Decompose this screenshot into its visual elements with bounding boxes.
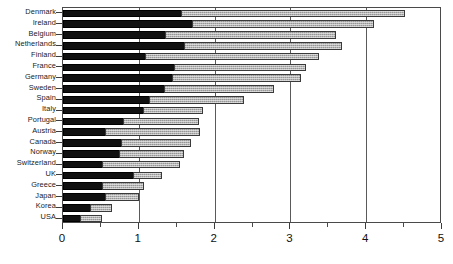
plot-area bbox=[62, 7, 441, 223]
y-axis-label-korea: Korea bbox=[0, 201, 56, 212]
bar-segment-dark bbox=[63, 31, 165, 39]
bar-row bbox=[63, 30, 442, 41]
x-tick-label-3: 3 bbox=[286, 231, 292, 245]
bar-segment-light bbox=[105, 128, 200, 136]
bar-segment-light bbox=[105, 193, 139, 201]
x-tick-major-3 bbox=[289, 223, 290, 229]
bar-segment-light bbox=[192, 20, 374, 28]
bar-row bbox=[63, 51, 442, 62]
y-axis-label-belgium: Belgium bbox=[0, 29, 56, 40]
bar-row bbox=[63, 105, 442, 116]
y-axis-label-austria: Austria bbox=[0, 126, 56, 137]
x-axis: 012345 bbox=[62, 223, 441, 253]
bar-segment-dark bbox=[63, 10, 181, 18]
bar-row bbox=[63, 170, 442, 181]
bar-segment-light bbox=[172, 74, 301, 82]
bar-row bbox=[63, 94, 442, 105]
y-axis-label-denmark: Denmark bbox=[0, 7, 56, 18]
x-tick-label-0: 0 bbox=[59, 231, 65, 245]
bar-segment-light bbox=[123, 118, 199, 126]
x-tick-major-0 bbox=[62, 223, 63, 229]
bar-row bbox=[63, 148, 442, 159]
bar-segment-dark bbox=[63, 85, 164, 93]
y-axis-label-italy: Italy bbox=[0, 104, 56, 115]
bar-segment-light bbox=[102, 182, 144, 190]
bar-segment-dark bbox=[63, 42, 184, 50]
y-axis-label-switzerland: Switzerland bbox=[0, 158, 56, 169]
bar-segment-light bbox=[102, 161, 180, 169]
bar-segment-light bbox=[181, 10, 405, 18]
bar-segment-light bbox=[119, 150, 184, 158]
y-axis-label-greece: Greece bbox=[0, 180, 56, 191]
bar-segment-light bbox=[90, 204, 113, 212]
y-axis-label-ireland: Ireland bbox=[0, 18, 56, 29]
bar-row bbox=[63, 19, 442, 30]
bar-segment-light bbox=[165, 31, 336, 39]
bar-segment-light bbox=[184, 42, 342, 50]
bar-segment-light bbox=[133, 172, 162, 180]
x-tick-minor-2.5 bbox=[252, 223, 253, 227]
x-tick-minor-4.5 bbox=[403, 223, 404, 227]
bar-segment-dark bbox=[63, 74, 172, 82]
x-tick-major-2 bbox=[214, 223, 215, 229]
bar-segment-dark bbox=[63, 172, 133, 180]
bar-segment-dark bbox=[63, 204, 90, 212]
bar-row bbox=[63, 202, 442, 213]
bar-segment-dark bbox=[63, 161, 102, 169]
y-axis-label-canada: Canada bbox=[0, 137, 56, 148]
bar-row bbox=[63, 8, 442, 19]
bar-segment-light bbox=[164, 85, 274, 93]
x-tick-label-2: 2 bbox=[210, 231, 216, 245]
bar-segment-dark bbox=[63, 118, 123, 126]
x-tick-label-5: 5 bbox=[438, 231, 444, 245]
bar-row bbox=[63, 138, 442, 149]
bar-row bbox=[63, 40, 442, 51]
bar-segment-light bbox=[80, 215, 103, 223]
bar-segment-light bbox=[174, 64, 307, 72]
y-axis-label-sweden: Sweden bbox=[0, 83, 56, 94]
bar-row bbox=[63, 116, 442, 127]
bar-segment-light bbox=[149, 96, 244, 104]
bar-segment-dark bbox=[63, 128, 105, 136]
x-tick-minor-0.5 bbox=[100, 223, 101, 227]
x-tick-major-1 bbox=[138, 223, 139, 229]
y-axis-label-finland: Finland bbox=[0, 50, 56, 61]
bar-segment-dark bbox=[63, 182, 102, 190]
bar-segment-dark bbox=[63, 107, 143, 115]
bar-segment-dark bbox=[63, 53, 145, 61]
x-tick-label-1: 1 bbox=[135, 231, 141, 245]
bar-row bbox=[63, 127, 442, 138]
y-axis-label-germany: Germany bbox=[0, 72, 56, 83]
y-axis-label-japan: Japan bbox=[0, 191, 56, 202]
y-axis-label-spain: Spain bbox=[0, 93, 56, 104]
bar-segment-light bbox=[121, 139, 191, 147]
bar-segment-dark bbox=[63, 215, 80, 223]
x-tick-label-4: 4 bbox=[362, 231, 368, 245]
y-axis-label-norway: Norway bbox=[0, 147, 56, 158]
bar-segment-dark bbox=[63, 20, 192, 28]
y-axis-category-labels: DenmarkIrelandBelgiumNetherlandsFinlandF… bbox=[0, 7, 58, 223]
x-tick-major-4 bbox=[365, 223, 366, 229]
bar-segment-light bbox=[143, 107, 204, 115]
y-axis-label-uk: UK bbox=[0, 169, 56, 180]
bar-chart: DenmarkIrelandBelgiumNetherlandsFinlandF… bbox=[0, 0, 453, 264]
bar-row bbox=[63, 192, 442, 203]
bar-segment-dark bbox=[63, 139, 121, 147]
y-axis-label-netherlands: Netherlands bbox=[0, 39, 56, 50]
x-tick-minor-1.5 bbox=[176, 223, 177, 227]
bar-segment-dark bbox=[63, 64, 174, 72]
bar-segment-dark bbox=[63, 96, 149, 104]
x-tick-minor-3.5 bbox=[327, 223, 328, 227]
y-axis-label-usa: USA bbox=[0, 212, 56, 223]
bar-segment-dark bbox=[63, 193, 105, 201]
bar-row bbox=[63, 159, 442, 170]
y-axis-label-portugal: Portugal bbox=[0, 115, 56, 126]
bar-row bbox=[63, 73, 442, 84]
bar-segment-light bbox=[145, 53, 319, 61]
bar-row bbox=[63, 84, 442, 95]
bar-segment-dark bbox=[63, 150, 119, 158]
y-axis-label-france: France bbox=[0, 61, 56, 72]
x-tick-major-5 bbox=[441, 223, 442, 229]
bar-row bbox=[63, 62, 442, 73]
bar-row bbox=[63, 181, 442, 192]
